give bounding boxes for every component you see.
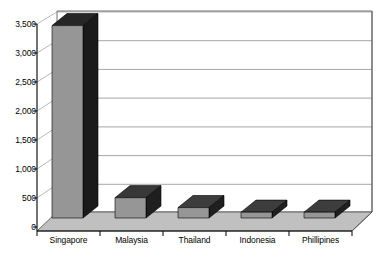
chart-caption-remnant (96, 248, 296, 256)
x-tick-label-indonesia: Indonesia (226, 236, 289, 245)
x-tick-label-singapore: Singapore (37, 236, 100, 245)
x-tick-label-malaysia: Malaysia (100, 236, 163, 245)
x-tick-label-phillipines: Phillipines (289, 236, 352, 245)
chart-x-axis-labels: Singapore Malaysia Thailand Indonesia Ph… (0, 0, 379, 257)
bar-chart: 3,500 3,000 2,500 2,000 1,500 1,000 500 … (0, 0, 379, 257)
x-tick-label-thailand: Thailand (163, 236, 226, 245)
